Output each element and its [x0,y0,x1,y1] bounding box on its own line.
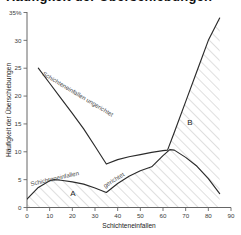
x-tick-label: 80 [205,212,212,219]
chart-container: Häufigkeit der Überschiebungen 051015202… [0,0,241,235]
x-tick-label: 40 [114,212,121,219]
y-tick-label: 35% [9,9,22,16]
y-tick-label: 0 [18,204,22,211]
region-a-label: A [70,189,76,198]
x-tick-label: 60 [160,212,167,219]
y-tick-label: 15 [15,120,22,127]
x-tick-label: 0 [25,212,29,219]
curve-label-ungerichtet: Schichteneinfallen ungerichtet [41,70,115,118]
y-tick-label: 10 [15,148,22,155]
x-tick-label: 10 [46,212,53,219]
y-axis-label: Häufigkeit der Überschiebungen [5,63,13,158]
y-tick-label: 5 [18,176,22,183]
x-tick-label: 20 [69,212,76,219]
chart-plot: 05101520253035% 0102030405060708090 Häuf… [0,0,241,235]
y-tick-label: 30 [15,37,22,44]
x-tick-label: 70 [182,212,189,219]
x-tick-label: 30 [92,212,99,219]
x-tick-label: 50 [137,212,144,219]
region-b-label: B [187,118,192,127]
x-tick-group: 0102030405060708090 [25,208,235,220]
x-tick-label: 90 [228,212,235,219]
x-axis-label: Schichteneinfallen [102,222,156,229]
y-tick-label: 25 [15,64,22,71]
y-tick-label: 20 [15,92,22,99]
